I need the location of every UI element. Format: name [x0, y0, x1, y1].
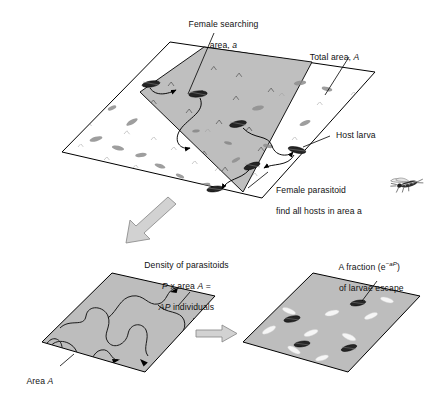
- label-total-area: Total area, A: [305, 42, 415, 63]
- wasp-icon: [389, 172, 425, 195]
- label-female-parasitoid: Female parasitoid find all hosts in area…: [271, 175, 389, 217]
- figure-canvas: Female searching area, a Total area, A H…: [0, 0, 448, 397]
- density-line2-end: =: [203, 281, 211, 291]
- fraction-line1-pre: A fraction (e: [339, 262, 386, 272]
- label-density-of-parasitoids: Density of parasitoids P x area A = AP i…: [116, 250, 252, 312]
- total-area-pre: Total area,: [310, 52, 354, 62]
- fraction-line1-post: ): [397, 262, 400, 272]
- density-line1: Density of parasitoids: [144, 260, 228, 270]
- density-line2-mid: x area: [168, 281, 197, 291]
- density-var-ap: AP: [159, 302, 171, 312]
- fraction-exponent: −aP: [386, 261, 397, 268]
- area-a-var: A: [48, 376, 54, 386]
- fraction-line2: of larvae escape: [339, 283, 404, 293]
- label-host-larva: Host larva: [336, 130, 431, 140]
- female-parasitoid-line1: Female parasitoid: [276, 185, 346, 195]
- leader-area-a: [60, 354, 74, 366]
- label-area-a: Area A: [22, 366, 92, 387]
- area-a-pre: Area: [27, 376, 48, 386]
- female-parasitoid-line2: find all hosts in area a: [276, 206, 362, 216]
- label-female-searching-area: Female searching area, a: [160, 9, 282, 51]
- female-searching-line2-pre: area,: [210, 40, 233, 50]
- label-fraction-escape: A fraction (e−aP) of larvae escape: [334, 252, 446, 294]
- density-line3-end: individuals: [170, 302, 214, 312]
- total-area-var: A: [354, 52, 360, 62]
- process-arrow-right: [196, 325, 237, 342]
- female-searching-line1: Female searching: [189, 19, 259, 29]
- female-searching-var: a: [232, 40, 237, 50]
- process-arrow-down: [126, 197, 176, 243]
